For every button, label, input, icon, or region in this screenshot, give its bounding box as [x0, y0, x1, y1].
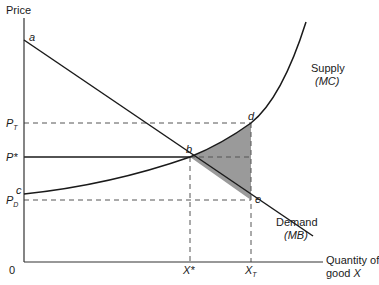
- demand-sublabel: (MB): [284, 229, 308, 241]
- supply-sublabel: (MC): [315, 75, 339, 87]
- y-axis-label: Price: [6, 4, 31, 16]
- supply-label: Supply: [311, 62, 345, 74]
- price-label-pd: PD: [6, 194, 18, 208]
- quantity-label-xstar: X*: [183, 264, 195, 276]
- point-label-b: b: [186, 143, 192, 155]
- x-axis-label-line1: Quantity of: [326, 254, 379, 266]
- price-label-pstar: P*: [6, 151, 18, 163]
- quantity-label-xt: XT: [245, 264, 257, 278]
- x-axis-label-line2: good X: [326, 267, 361, 279]
- price-label-pt: PT: [6, 117, 18, 131]
- origin-label: 0: [9, 264, 15, 276]
- point-label-a: a: [29, 31, 35, 43]
- point-label-e: e: [255, 193, 261, 205]
- demand-curve: [24, 40, 313, 236]
- supply-curve: [24, 22, 306, 194]
- point-label-d: d: [248, 110, 254, 122]
- demand-label: Demand: [276, 216, 318, 228]
- point-label-c: c: [16, 184, 22, 196]
